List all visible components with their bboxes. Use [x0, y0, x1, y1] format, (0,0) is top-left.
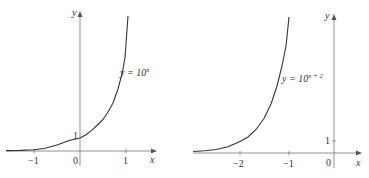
left-tick-label-1: 1: [123, 155, 128, 166]
right-tick-label-0: 0: [326, 157, 331, 168]
left-graph: y x −1 0 1 1 y = 10x: [6, 7, 157, 166]
right-equation: y = 10x + 2: [281, 72, 324, 84]
left-y-arrow-icon: [78, 11, 83, 17]
right-y-label: y: [324, 10, 330, 21]
right-curve: [193, 17, 289, 152]
right-graph: y x −2 −1 0 1 y = 10x + 2: [193, 10, 362, 169]
right-tick-label-neg2: −2: [233, 158, 244, 169]
left-y-label: y: [71, 7, 77, 18]
left-equation: y = 10x: [119, 66, 150, 78]
left-tick-label-neg1: −1: [28, 155, 39, 166]
right-y-arrow-icon: [332, 14, 337, 20]
left-x-arrow-icon: [151, 149, 157, 154]
left-curve: [6, 16, 128, 151]
exponential-graphs: y x −1 0 1 1 y = 10x y x −2 −1 0 1 y = 1…: [0, 0, 369, 178]
right-ytick-label-1: 1: [325, 135, 330, 146]
left-tick-label-0: 0: [73, 155, 78, 166]
left-x-label: x: [149, 154, 155, 165]
right-x-label: x: [355, 157, 361, 168]
right-tick-label-neg1: −1: [283, 158, 294, 169]
right-x-arrow-icon: [356, 151, 362, 156]
left-ytick-label-1: 1: [73, 130, 78, 141]
